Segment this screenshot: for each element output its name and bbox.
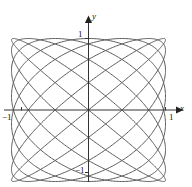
x-axis-tick-label-negative-one: −1 (2, 113, 12, 122)
y-axis-tick-label-positive-one: 1 (78, 30, 83, 39)
lissajous-figure: y x 1 −1 1 −1 (0, 0, 192, 187)
y-axis-label: y (92, 12, 96, 21)
y-axis-tick-label-negative-one: −1 (75, 166, 85, 175)
plot-canvas (0, 0, 192, 187)
x-axis-label: x (180, 104, 184, 113)
x-axis-tick-label-positive-one: 1 (169, 113, 174, 122)
